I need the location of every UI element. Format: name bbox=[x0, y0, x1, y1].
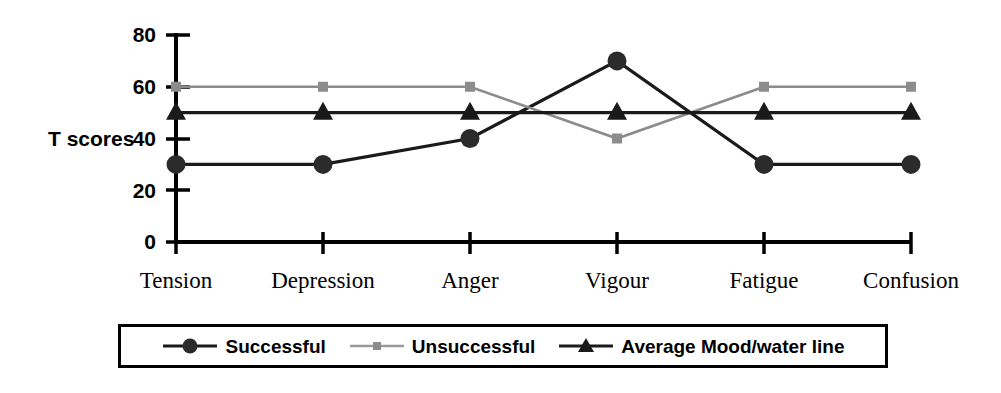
small-square-marker bbox=[465, 82, 475, 92]
y-tick-label-80: 80 bbox=[96, 24, 156, 45]
legend-swatch-successful bbox=[161, 336, 219, 356]
legend-item-average-mood[interactable]: Average Mood/water line bbox=[557, 336, 844, 356]
y-tick-label-0: 0 bbox=[96, 231, 156, 252]
filled-triangle-marker bbox=[607, 102, 627, 120]
small-square-marker bbox=[171, 82, 181, 92]
filled-triangle-marker bbox=[313, 102, 333, 120]
chart-legend: Successful Unsuccessful Average Mood/wat… bbox=[118, 324, 888, 368]
filled-circle-marker bbox=[755, 155, 774, 174]
filled-circle-marker bbox=[167, 155, 186, 174]
x-label-anger: Anger bbox=[390, 269, 550, 292]
filled-triangle-marker bbox=[460, 102, 480, 120]
small-square-marker bbox=[318, 82, 328, 92]
mood-profile-chart: 80 60 40 20 0 T scores Tension Depressio… bbox=[0, 0, 1001, 393]
x-label-tension: Tension bbox=[96, 269, 256, 292]
filled-triangle-marker bbox=[901, 102, 921, 120]
legend-swatch-average-mood bbox=[557, 336, 615, 356]
series-average-mood-water-line bbox=[166, 102, 921, 120]
x-label-vigour: Vigour bbox=[537, 269, 697, 292]
legend-label-successful: Successful bbox=[225, 337, 325, 356]
x-label-confusion: Confusion bbox=[831, 269, 991, 292]
filled-circle-marker bbox=[902, 155, 921, 174]
filled-triangle-marker bbox=[754, 102, 774, 120]
legend-item-unsuccessful[interactable]: Unsuccessful bbox=[348, 336, 536, 356]
series-layer bbox=[166, 51, 921, 174]
x-label-depression: Depression bbox=[243, 269, 403, 292]
x-label-fatigue: Fatigue bbox=[684, 269, 844, 292]
legend-swatch-unsuccessful bbox=[348, 336, 406, 356]
legend-item-successful[interactable]: Successful bbox=[161, 336, 325, 356]
legend-label-unsuccessful: Unsuccessful bbox=[412, 337, 536, 356]
y-axis-title: T scores bbox=[48, 128, 134, 149]
small-square-marker bbox=[906, 82, 916, 92]
small-square-marker bbox=[612, 134, 622, 144]
filled-triangle-marker bbox=[166, 102, 186, 120]
legend-items: Successful Unsuccessful Average Mood/wat… bbox=[121, 327, 885, 365]
y-tick-label-20: 20 bbox=[96, 180, 156, 201]
filled-circle-marker bbox=[608, 51, 627, 70]
filled-circle-marker bbox=[461, 129, 480, 148]
y-tick-label-60: 60 bbox=[96, 76, 156, 97]
legend-label-average-mood: Average Mood/water line bbox=[621, 337, 844, 356]
small-square-marker bbox=[759, 82, 769, 92]
small-square-marker bbox=[373, 342, 381, 350]
filled-circle-marker bbox=[314, 155, 333, 174]
filled-circle-marker bbox=[183, 339, 198, 354]
